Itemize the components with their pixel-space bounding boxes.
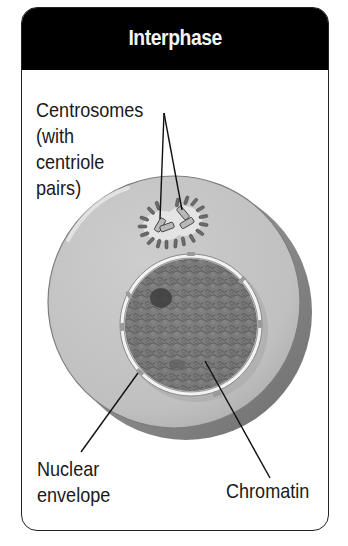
label-line: Nuclear bbox=[37, 456, 110, 482]
label-line: Chromatin bbox=[226, 478, 309, 504]
label-chromatin: Chromatin bbox=[226, 478, 309, 504]
label-line: Centrosomes bbox=[36, 97, 143, 123]
label-line: envelope bbox=[37, 482, 110, 508]
label-line: pairs) bbox=[36, 175, 143, 201]
label-centrosomes: Centrosomes (with centriole pairs) bbox=[36, 97, 143, 201]
label-line: centriole bbox=[36, 149, 143, 175]
nucleolus bbox=[150, 288, 172, 308]
label-nuclear-envelope: Nuclear envelope bbox=[37, 456, 110, 508]
chromatin bbox=[125, 259, 257, 391]
label-line: (with bbox=[36, 123, 143, 149]
